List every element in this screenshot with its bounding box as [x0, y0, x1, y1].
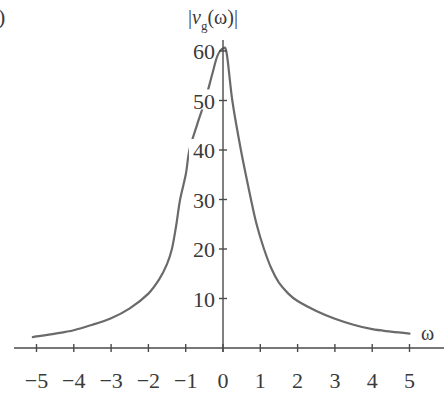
x-tick-label: −5 [25, 368, 48, 393]
panel-label: ) [0, 4, 5, 29]
x-tick-label: −4 [62, 368, 85, 393]
data-curve [33, 48, 410, 338]
y-tick-label: 60 [193, 39, 215, 64]
y-tick-label: 40 [193, 138, 215, 163]
x-axis-title: ω [421, 322, 434, 344]
x-tick-label: 0 [218, 368, 229, 393]
x-tick-label: −1 [174, 368, 197, 393]
y-axis-title: |vg(ω)| [188, 6, 238, 33]
x-ticks: −5−4−3−2−1012345 [25, 344, 415, 393]
x-tick-label: 4 [367, 368, 378, 393]
x-tick-label: 1 [255, 368, 266, 393]
x-tick-label: 2 [292, 368, 303, 393]
y-tick-label: 50 [193, 89, 215, 114]
y-tick-label: 30 [193, 188, 215, 213]
y-ticks: 102030405060 [189, 39, 227, 312]
x-tick-label: 3 [329, 368, 340, 393]
x-tick-label: −3 [99, 368, 122, 393]
y-tick-label: 10 [193, 287, 215, 312]
chart: ) |vg(ω)| −5−4−3−2−1012345 102030405060 … [0, 0, 444, 395]
x-tick-label: 5 [404, 368, 415, 393]
x-tick-label: −2 [137, 368, 160, 393]
y-tick-label: 20 [193, 237, 215, 262]
